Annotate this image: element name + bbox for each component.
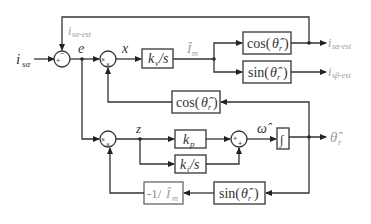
svg-text:×: × xyxy=(106,141,110,148)
svg-text:−: − xyxy=(60,50,64,57)
cos-theta-mid-block: cos( θ̂ r ) xyxy=(172,91,220,113)
pll-block-diagram: i sα + − i sα-est e × × x k v /s Î m xyxy=(0,0,371,224)
svg-text:p: p xyxy=(189,139,195,149)
svg-text:): ) xyxy=(213,95,218,111)
svg-text:m: m xyxy=(192,49,198,58)
output-i-s-alpha-est-label: i sα-est xyxy=(328,36,352,51)
svg-text:k: k xyxy=(183,132,190,147)
output-i-s-beta-est-label: i sβ-est xyxy=(328,65,351,80)
svg-text:sα-est: sα-est xyxy=(332,42,352,51)
feedback-branch-dot xyxy=(307,41,311,45)
ki-to-sum2-line xyxy=(206,148,239,164)
svg-text:/s: /s xyxy=(158,51,169,66)
svg-text:i: i xyxy=(187,165,189,174)
svg-text:): ) xyxy=(284,36,289,52)
neg-inv-im-block: -1/ Î m xyxy=(144,182,183,204)
cos-theta-top-block: cos( θ̂ r ) xyxy=(243,32,291,54)
integrator-block: ∫ xyxy=(277,128,289,149)
input-i-s-alpha-label: i sα xyxy=(16,51,31,69)
svg-text:+: + xyxy=(233,135,237,142)
svg-text:m: m xyxy=(172,194,178,203)
svg-text:-1/: -1/ xyxy=(147,186,162,201)
sum-junction-1: + − xyxy=(54,50,70,67)
sin-theta-top-block: sin( θ̂ r ) xyxy=(243,61,291,83)
svg-text:i: i xyxy=(68,24,71,38)
svg-text:sα-est: sα-est xyxy=(72,30,92,39)
z-label: z xyxy=(135,121,141,136)
svg-text:×: × xyxy=(101,136,105,143)
omega-hat-label: ω̂ xyxy=(257,121,273,136)
cos-mid-to-mult1-line xyxy=(108,68,172,102)
z-to-ki-line xyxy=(140,139,174,164)
kp-block: k p xyxy=(175,130,206,149)
svg-text:/s: /s xyxy=(189,157,200,172)
svg-text:+: + xyxy=(56,57,60,64)
x-label: x xyxy=(121,41,129,56)
im-hat-label: Î m xyxy=(186,41,198,58)
svg-text:×: × xyxy=(106,61,110,68)
svg-text:r: r xyxy=(338,137,342,147)
svg-text:i: i xyxy=(16,51,20,67)
multiplier-1: × × xyxy=(100,51,116,68)
svg-text:k: k xyxy=(180,157,187,172)
to-sin-top-line xyxy=(214,59,242,72)
svg-text:+: + xyxy=(238,140,242,147)
svg-text:cos(: cos( xyxy=(247,36,271,52)
svg-text:×: × xyxy=(101,56,105,63)
svg-text:sin(: sin( xyxy=(248,65,269,81)
svg-text:sβ-est: sβ-est xyxy=(332,71,351,80)
to-cos-top-line xyxy=(214,43,242,59)
diagram-svg: i sα + − i sα-est e × × x k v /s Î m xyxy=(0,0,371,224)
svg-text:): ) xyxy=(254,186,259,202)
svg-text:sin(: sin( xyxy=(219,186,240,202)
e-branch-line xyxy=(82,59,99,139)
svg-text:i: i xyxy=(328,36,331,50)
svg-text:sα: sα xyxy=(22,59,31,69)
svg-text:cos(: cos( xyxy=(176,95,200,111)
output-theta-r-hat-label: θ̂ r xyxy=(330,129,343,147)
kv-over-s-block: k v /s xyxy=(142,49,173,68)
multiplier-2: × × xyxy=(100,131,116,148)
sum-junction-2: + + xyxy=(231,131,247,147)
sin-theta-bottom-block: sin( θ̂ r ) xyxy=(214,182,265,204)
ki-over-s-block: k i /s xyxy=(175,155,206,174)
feedback-i-s-alpha-est-label: i sα-est xyxy=(68,24,92,39)
svg-text:k: k xyxy=(148,51,155,66)
neg-inv-im-to-mult2-line xyxy=(110,148,144,193)
svg-text:i: i xyxy=(328,65,331,79)
e-label: e xyxy=(78,41,84,56)
svg-text:): ) xyxy=(283,65,288,81)
